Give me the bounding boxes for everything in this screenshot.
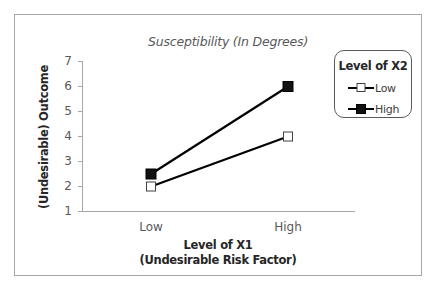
x-axis-label-line1: Level of X1 [140, 238, 297, 253]
legend-item-low: Low [348, 81, 396, 95]
marker-low-low [147, 182, 156, 191]
legend-label-high: High [375, 103, 399, 116]
x-axis-label: Level of X1 (Undesirable Risk Factor) [140, 238, 297, 268]
legend-item-high: High [348, 102, 399, 116]
x-tick-high: High [274, 220, 302, 234]
marker-high-low [146, 169, 156, 179]
marker-high-high [283, 82, 293, 92]
legend-label-low: Low [375, 82, 396, 95]
y-tick-marks [78, 62, 82, 212]
filled-square-marker-icon [348, 103, 374, 115]
legend-title: Level of X2 [335, 59, 411, 73]
x-axis-label-line2: (Undesirable Risk Factor) [140, 253, 297, 268]
marker-low-high [284, 132, 293, 141]
legend: Level of X2 Low High [334, 50, 412, 118]
open-square-marker-icon [348, 82, 374, 94]
x-tick-low: Low [139, 220, 163, 234]
